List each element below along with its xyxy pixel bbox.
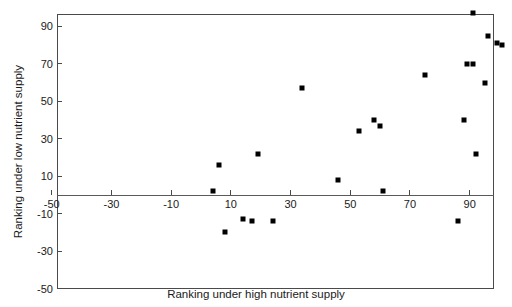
x-tick-mark — [350, 190, 351, 195]
x-tick-label: 70 — [404, 198, 416, 210]
data-point — [500, 43, 505, 48]
x-tick-mark — [230, 190, 231, 195]
data-point — [372, 118, 377, 123]
data-point — [485, 33, 490, 38]
y-tick-label: 10 — [27, 170, 53, 182]
x-tick-label: -10 — [163, 198, 179, 210]
y-tick-mark — [57, 138, 62, 139]
y-tick-label: -30 — [27, 245, 53, 257]
data-point — [455, 219, 460, 224]
data-point — [494, 41, 499, 46]
x-axis-label: Ranking under high nutrient supply — [0, 288, 512, 300]
x-tick-label: 10 — [225, 198, 237, 210]
data-point — [300, 86, 305, 91]
x-tick-label: 30 — [284, 198, 296, 210]
y-tick-mark — [57, 101, 62, 102]
x-tick-mark — [111, 190, 112, 195]
data-point — [422, 73, 427, 78]
data-point — [473, 151, 478, 156]
plot-area — [57, 14, 494, 289]
y-axis-label: Ranking under low nutrient supply — [12, 14, 24, 289]
data-point — [464, 61, 469, 66]
data-point — [240, 217, 245, 222]
y-tick-mark — [57, 251, 62, 252]
data-point — [470, 11, 475, 16]
data-point — [216, 163, 221, 168]
x-tick-mark — [409, 190, 410, 195]
scatter-plot-figure: -50-30-101030507090 9070503010-10-30-50 … — [0, 0, 512, 307]
x-tick-mark — [290, 190, 291, 195]
y-tick-label: 90 — [27, 20, 53, 32]
data-point — [270, 219, 275, 224]
y-tick-mark — [57, 63, 62, 64]
x-tick-label: 50 — [344, 198, 356, 210]
x-tick-label: -30 — [103, 198, 119, 210]
x-tick-mark — [171, 190, 172, 195]
data-point — [222, 230, 227, 235]
y-tick-label: 70 — [27, 58, 53, 70]
x-tick-mark — [469, 190, 470, 195]
data-point — [336, 178, 341, 183]
data-point — [378, 123, 383, 128]
y-tick-mark — [57, 26, 62, 27]
y-tick-label: -10 — [27, 208, 53, 220]
data-point — [255, 151, 260, 156]
data-point — [470, 61, 475, 66]
data-point — [249, 219, 254, 224]
y-tick-mark — [57, 213, 62, 214]
data-point — [381, 189, 386, 194]
y-tick-label: 30 — [27, 133, 53, 145]
y-tick-mark — [57, 176, 62, 177]
x-tick-label: 90 — [464, 198, 476, 210]
data-point — [210, 189, 215, 194]
data-point — [357, 129, 362, 134]
data-point — [482, 80, 487, 85]
data-point — [461, 118, 466, 123]
x-zero-axis-line — [57, 195, 494, 196]
y-tick-label: 50 — [27, 95, 53, 107]
x-tick-mark — [51, 190, 52, 195]
